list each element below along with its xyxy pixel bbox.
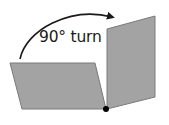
turn-diagram xyxy=(0,0,169,125)
pivot-point xyxy=(103,106,109,112)
turn-label: 90° turn xyxy=(39,28,102,46)
left-face-parallelogram xyxy=(10,63,106,109)
right-face-rotated xyxy=(107,16,155,109)
